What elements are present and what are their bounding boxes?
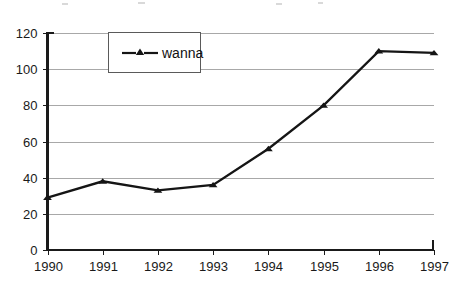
y-tick-label: 80 [23,98,37,113]
x-tick-label: 1993 [199,259,228,274]
y-tick-label: 0 [30,243,37,258]
legend-label-wanna: wanna [161,45,203,61]
chart-background [0,0,464,288]
x-tick-label: 1997 [420,259,449,274]
x-tick-label: 1991 [89,259,118,274]
x-tick-label: 1992 [144,259,173,274]
y-tick-label: 60 [23,135,37,150]
x-tick-label: 1994 [254,259,283,274]
chart-canvas: 020406080100120 199019911992199319941995… [0,0,464,288]
x-tick-label: 1995 [310,259,339,274]
line-chart: 020406080100120 199019911992199319941995… [0,0,464,288]
y-tick-label: 100 [16,62,38,77]
y-tick-label: 40 [23,171,37,186]
y-tick-label: 20 [23,207,37,222]
legend: wanna [109,33,204,73]
x-tick-label: 1996 [365,259,394,274]
x-tick-label: 1990 [34,259,63,274]
y-tick-label: 120 [16,26,38,41]
